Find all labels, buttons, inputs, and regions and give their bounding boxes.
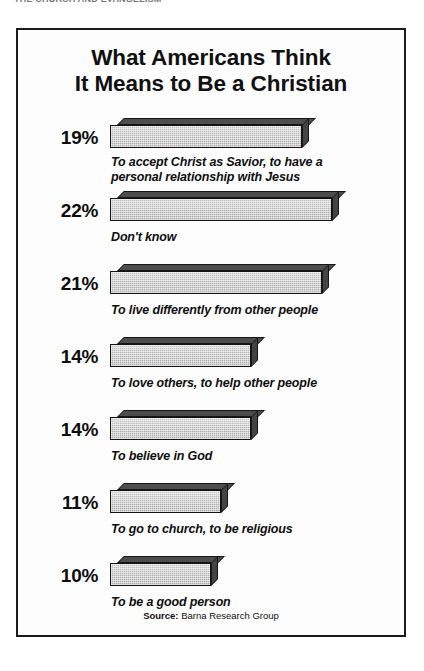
bar-top-face: [117, 556, 225, 563]
bar-side-face: [302, 118, 309, 148]
bar-front-face: [110, 125, 302, 148]
bar-side-face: [251, 410, 258, 440]
bar-3d: [110, 556, 218, 592]
bar-caption: To live differently from other people: [111, 303, 401, 318]
bar-percent-label: 10%: [18, 565, 98, 587]
bar-caption-line-1: To go to church, to be religious: [111, 522, 401, 537]
bar-front-face: [110, 344, 251, 367]
bar-caption-line-1: To love others, to help other people: [111, 376, 401, 391]
bar-caption-line-1: Don't know: [111, 230, 401, 245]
bar-front-face: [110, 198, 332, 221]
bar-caption-line-1: To live differently from other people: [111, 303, 401, 318]
bar-row: 11%To go to church, to be religious: [18, 479, 404, 552]
bar-front-face: [110, 271, 322, 294]
bar-side-face: [251, 337, 258, 367]
bar-3d: [110, 483, 228, 519]
bar-caption: To accept Christ as Savior, to have aper…: [111, 155, 401, 185]
bar-top-face: [117, 337, 265, 344]
bar-caption: To go to church, to be religious: [111, 522, 401, 537]
figure-title: What Americans Think It Means to Be a Ch…: [36, 45, 386, 96]
bar-3d: [110, 191, 339, 227]
bar-top-face: [117, 118, 316, 125]
figure-title-line-1: What Americans Think: [36, 45, 386, 71]
source-attribution: Source: Barna Research Group: [18, 610, 404, 621]
bar-side-face: [322, 264, 329, 294]
source-value: Barna Research Group: [181, 610, 279, 621]
bar-row: 19%To accept Christ as Savior, to have a…: [18, 114, 404, 187]
bar-caption-line-1: To be a good person: [111, 595, 401, 610]
bar-top-face: [117, 191, 346, 198]
bar-top-face: [117, 410, 265, 417]
bar-percent-label: 14%: [18, 419, 98, 441]
bar-caption: To be a good person: [111, 595, 401, 610]
bar-caption: To love others, to help other people: [111, 376, 401, 391]
bar-3d: [110, 410, 258, 446]
bar-top-face: [117, 483, 235, 490]
bar-percent-label: 14%: [18, 346, 98, 368]
bar-row: 14%To love others, to help other people: [18, 333, 404, 406]
source-label: Source:: [143, 610, 178, 621]
bar-3d: [110, 337, 258, 373]
bar-front-face: [110, 563, 211, 586]
bar-side-face: [211, 556, 218, 586]
bar-percent-label: 21%: [18, 273, 98, 295]
bar-row: 21%To live differently from other people: [18, 260, 404, 333]
bar-3d: [110, 264, 329, 300]
bar-row: 22%Don't know: [18, 187, 404, 260]
bar-3d: [110, 118, 309, 154]
bar-chart: 19%To accept Christ as Savior, to have a…: [18, 114, 404, 625]
figure-frame: What Americans Think It Means to Be a Ch…: [16, 28, 406, 637]
bar-caption-line-1: To believe in God: [111, 449, 401, 464]
bar-caption-line-2: personal relationship with Jesus: [111, 170, 401, 185]
bar-percent-label: 19%: [18, 127, 98, 149]
bar-percent-label: 11%: [18, 492, 98, 514]
figure-title-line-2: It Means to Be a Christian: [36, 71, 386, 97]
bar-caption: Don't know: [111, 230, 401, 245]
bar-side-face: [332, 191, 339, 221]
page-running-head: THE CHURCH AND EVANGELISM: [14, 0, 274, 3]
bar-side-face: [221, 483, 228, 513]
bar-top-face: [117, 264, 336, 271]
bar-front-face: [110, 490, 221, 513]
bar-caption: To believe in God: [111, 449, 401, 464]
bar-front-face: [110, 417, 251, 440]
bar-row: 14%To believe in God: [18, 406, 404, 479]
bar-percent-label: 22%: [18, 200, 98, 222]
bar-caption-line-1: To accept Christ as Savior, to have a: [111, 155, 401, 170]
